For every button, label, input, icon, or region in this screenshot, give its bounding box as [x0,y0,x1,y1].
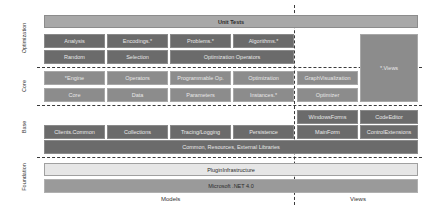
block-operators: Operators [107,71,168,85]
block-core: Core [44,88,105,102]
block-tracing-logging: Tracing/Logging [170,125,231,139]
block-problems: Problems.* [170,34,231,48]
block-analysis: Analysis [44,34,105,48]
block-selection: Selection [107,50,168,64]
block-main-form: MainForm [297,125,358,139]
block-clients-common: Clients.Common [44,125,105,139]
block-optimization: Optimization [233,71,294,85]
block-instances: Instances.* [233,88,294,102]
block-engine: *Engine [44,71,105,85]
column-label-views: Views [350,196,366,202]
block-control-extensions: ControlExtensions [360,125,418,139]
block-encodings: Encodings.* [107,34,168,48]
block-parameters: Parameters [170,88,231,102]
block-algorithms: Algorithms.* [233,34,294,48]
block-dotnet: Microsoft .NET 4.0 [44,179,418,193]
block-collections: Collections [107,125,168,139]
block-random: Random [44,50,105,64]
divider-base-foundation [37,157,422,158]
block-plugin-infrastructure: PluginInfrastructure [44,163,418,176]
block-data: Data [107,88,168,102]
block-windows-forms: WindowsForms [297,110,358,124]
unit-tests-block: Unit Tests [44,15,418,28]
block-views: *.Views [360,34,418,102]
block-graph-visualization: GraphVisualization [297,71,358,85]
block-programmable-op: Programmable Op. [170,71,231,85]
layer-label-foundation: Foundation [21,147,27,207]
block-code-editor: CodeEditor [360,110,418,124]
block-optimization-operators: Optimization Operators [170,50,294,64]
block-persistence: Persistence [233,125,294,139]
column-label-models: Models [161,196,180,202]
block-optimizer: Optimizer [297,88,358,102]
block-common-resources: Common, Resources, External Libraries [44,140,418,154]
divider-core-base [37,105,422,106]
